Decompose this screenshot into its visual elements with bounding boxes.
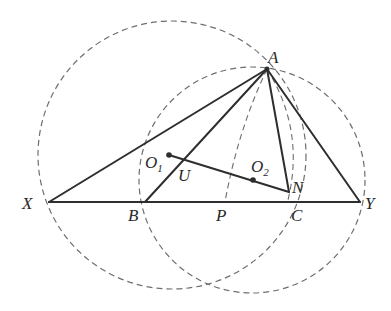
label-u: U: [178, 166, 192, 185]
label-o1: O1: [145, 153, 163, 174]
label-y: Y: [365, 194, 376, 213]
label-o2: O2: [251, 157, 269, 178]
label-p: P: [215, 206, 226, 225]
label-a: A: [267, 48, 279, 67]
arc-a-p: [225, 69, 267, 202]
segment-ab: [145, 69, 267, 202]
point-o1: [166, 152, 172, 158]
point-o2: [250, 177, 256, 183]
segment-ac: [267, 69, 289, 192]
segment-ay: [267, 69, 360, 202]
geometry-figure: A X B P C Y U N O1 O2: [0, 0, 391, 311]
point-a: [265, 67, 270, 72]
label-b: B: [128, 206, 139, 225]
label-c: C: [291, 206, 303, 225]
label-n: N: [291, 178, 305, 197]
label-x: X: [21, 194, 33, 213]
segment-ax: [49, 69, 267, 202]
